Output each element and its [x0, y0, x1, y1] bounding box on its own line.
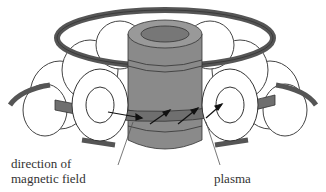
field-label: direction of magnetic field: [11, 156, 86, 186]
plasma-label: plasma: [214, 171, 251, 186]
field-label-line2: magnetic field: [11, 171, 86, 186]
central-solenoid: [128, 20, 202, 149]
field-label-line1: direction of: [11, 156, 86, 171]
